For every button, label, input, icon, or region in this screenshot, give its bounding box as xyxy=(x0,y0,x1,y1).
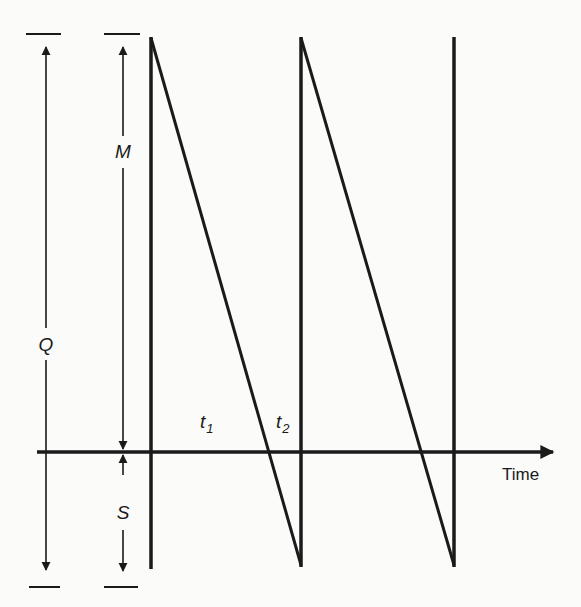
depletion-line-1 xyxy=(151,38,301,565)
t1-label: t1 xyxy=(200,411,214,436)
s-label: S xyxy=(117,502,130,523)
t2-label: t2 xyxy=(276,411,290,436)
m-label: M xyxy=(115,141,131,162)
inventory-diagram: Q M S Time t1 t2 xyxy=(0,0,581,607)
depletion-line-2 xyxy=(301,38,454,565)
time-axis-label: Time xyxy=(502,465,539,484)
q-label: Q xyxy=(39,334,54,355)
